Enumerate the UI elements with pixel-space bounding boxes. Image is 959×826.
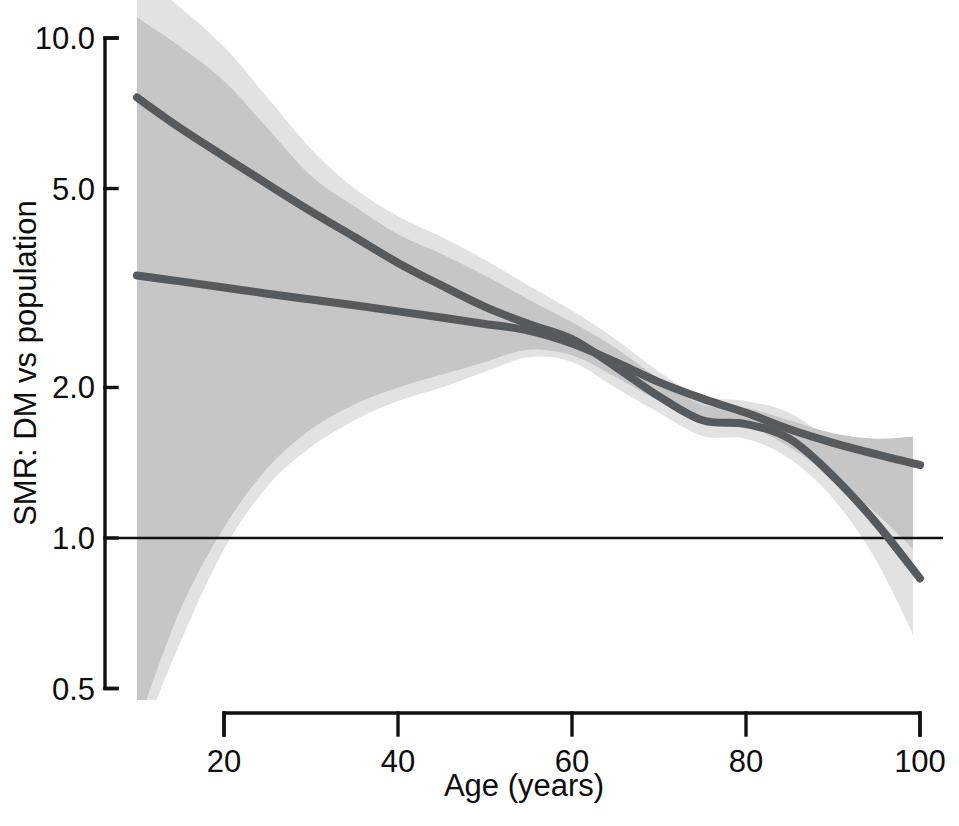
chart-figure: 10.05.02.01.00.5 SMR: DM vs population 2… (0, 0, 959, 826)
y-axis-title: SMR: DM vs population (8, 200, 43, 526)
y-axis: 10.05.02.01.00.5 SMR: DM vs population (8, 21, 117, 707)
y-tick-label-10.0: 10.0 (35, 21, 95, 56)
y-tick-label-2.0: 2.0 (52, 370, 95, 405)
y-tick-label-5.0: 5.0 (52, 172, 95, 207)
x-axis: 20406080100 Age (years) (207, 713, 946, 803)
x-tick-label-20: 20 (207, 744, 241, 779)
x-tick-label-40: 40 (381, 744, 415, 779)
smr-vs-age-chart: 10.05.02.01.00.5 SMR: DM vs population 2… (0, 0, 959, 826)
y-tick-labels: 10.05.02.01.00.5 (35, 21, 95, 707)
x-tick-marks (224, 713, 920, 735)
linear-confidence-band (137, 17, 920, 726)
x-tick-label-100: 100 (894, 744, 946, 779)
x-tick-label-80: 80 (729, 744, 763, 779)
y-tick-label-0.5: 0.5 (52, 672, 95, 707)
x-axis-title: Age (years) (444, 768, 604, 803)
y-tick-marks (105, 38, 117, 689)
y-axis-line (105, 38, 117, 689)
y-tick-label-1.0: 1.0 (52, 521, 95, 556)
